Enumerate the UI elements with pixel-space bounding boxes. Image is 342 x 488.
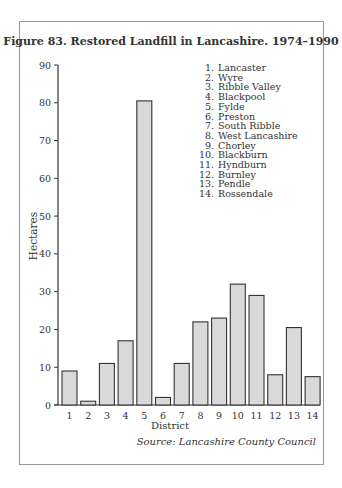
- bar-district-11: [249, 295, 264, 405]
- y-tick-label: 20: [39, 324, 51, 335]
- x-tick-label: 2: [85, 410, 91, 421]
- y-tick-label: 90: [39, 60, 51, 71]
- x-tick-label: 10: [232, 410, 244, 421]
- y-tick-label: 10: [39, 362, 51, 373]
- x-tick-label: 1: [66, 410, 72, 421]
- legend-item: 14.Rossendale: [198, 189, 298, 199]
- x-tick-label: 9: [216, 410, 222, 421]
- x-tick-label: 5: [141, 410, 147, 421]
- y-tick-label: 0: [45, 400, 51, 411]
- bar-district-13: [286, 328, 301, 405]
- x-tick-label: 4: [123, 410, 129, 421]
- bar-district-6: [156, 397, 171, 405]
- x-axis-label: District: [151, 420, 189, 431]
- y-tick-label: 30: [39, 286, 51, 297]
- bar-district-7: [174, 363, 189, 405]
- bar-district-2: [81, 401, 96, 405]
- y-tick-label: 80: [39, 97, 51, 108]
- bar-district-10: [230, 284, 245, 405]
- y-tick-label: 70: [39, 135, 51, 146]
- x-tick-label: 13: [288, 410, 300, 421]
- y-tick-label: 60: [39, 173, 51, 184]
- x-tick-label: 3: [104, 410, 110, 421]
- bar-district-1: [62, 371, 77, 405]
- y-tick-label: 50: [39, 211, 51, 222]
- bar-district-12: [268, 375, 283, 405]
- y-axis-label: Hectares: [27, 212, 39, 260]
- bar-district-3: [99, 363, 114, 405]
- bar-district-4: [118, 341, 133, 405]
- x-tick-label: 8: [197, 410, 203, 421]
- source-note: Source: Lancashire County Council: [137, 436, 316, 447]
- x-tick-label: 12: [269, 410, 281, 421]
- x-tick-label: 14: [307, 410, 319, 421]
- legend-district-name: Rossendale: [218, 188, 273, 199]
- y-tick-label: 40: [39, 248, 51, 259]
- x-tick-label: 11: [250, 410, 262, 421]
- bar-district-8: [193, 322, 208, 405]
- bar-district-14: [305, 377, 320, 405]
- legend-number: 14.: [198, 189, 214, 199]
- bar-district-9: [212, 318, 227, 405]
- bar-district-5: [137, 101, 152, 405]
- district-legend: 1.Lancaster2.Wyre3.Ribble Valley4.Blackp…: [198, 63, 298, 199]
